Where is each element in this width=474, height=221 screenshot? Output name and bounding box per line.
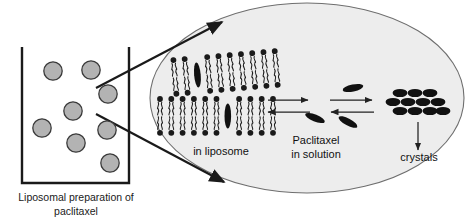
- beaker-container: [22, 47, 129, 183]
- liposome-vesicle: [33, 119, 51, 137]
- embedded-paclitaxel: [225, 103, 232, 128]
- crystal-unit: [393, 107, 408, 115]
- label-paclitaxel-in-solution-line2: in solution: [291, 148, 341, 160]
- crystal-unit: [423, 107, 438, 115]
- lipid-head: [214, 96, 220, 102]
- crystal-unit: [393, 89, 408, 97]
- liposome-vesicle: [67, 134, 85, 152]
- lipid-head: [270, 130, 276, 136]
- liposome-vesicle: [44, 62, 62, 80]
- lipid-head: [180, 96, 186, 102]
- lipid-head: [202, 130, 208, 136]
- label-paclitaxel-in-solution-line1: Paclitaxel: [292, 134, 339, 146]
- lipid-head: [191, 130, 197, 136]
- label-crystals: crystals: [400, 151, 438, 163]
- crystal-unit: [423, 89, 438, 97]
- liposome-vesicle: [82, 61, 100, 79]
- liposome-vesicle: [64, 102, 82, 120]
- lipid-head: [157, 96, 163, 102]
- liposome-vesicle: [99, 85, 117, 103]
- lipid-head: [191, 96, 197, 102]
- crystal-unit: [408, 89, 423, 97]
- figure-canvas: in liposome Paclitaxel in solution cryst…: [0, 0, 474, 221]
- liposome-vesicle: [98, 121, 116, 139]
- lipid-head: [180, 130, 186, 136]
- crystal-unit: [408, 107, 423, 115]
- lipid-head: [236, 130, 242, 136]
- lipid-head: [214, 130, 220, 136]
- lipid-head: [157, 130, 163, 136]
- crystal-unit: [401, 98, 416, 106]
- label-in-liposome: in liposome: [193, 145, 249, 157]
- caption-line2: paclitaxel: [54, 205, 98, 217]
- lipid-head: [248, 96, 254, 102]
- magnified-view-region: [150, 3, 464, 193]
- lipid-head: [236, 96, 242, 102]
- liposome-vesicle: [101, 154, 119, 172]
- caption-line1: Liposomal preparation of: [18, 191, 134, 203]
- crystal-unit: [416, 98, 431, 106]
- lipid-head: [248, 130, 254, 136]
- lipid-head: [259, 130, 265, 136]
- lipid-head: [259, 96, 265, 102]
- lipid-head: [202, 96, 208, 102]
- crystal-unit: [436, 107, 451, 115]
- crystal-unit: [386, 98, 401, 106]
- crystal-unit: [431, 98, 446, 106]
- lipid-head: [270, 96, 276, 102]
- diagram-svg: in liposome Paclitaxel in solution cryst…: [0, 0, 474, 221]
- lipid-head: [168, 130, 174, 136]
- lipid-head: [168, 96, 174, 102]
- magnifier-ellipse: [150, 3, 464, 193]
